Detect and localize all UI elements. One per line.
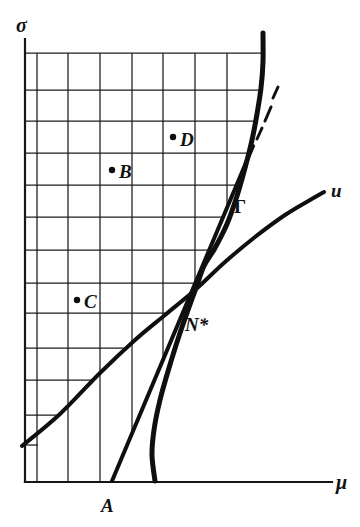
u-curve-label: u — [331, 180, 342, 201]
point-c-dot — [74, 297, 80, 303]
grid-layer — [25, 53, 262, 482]
gamma-curve-label: Γ — [234, 196, 246, 217]
point-b-dot — [109, 167, 115, 173]
point-a-label: A — [100, 495, 114, 516]
point-d-label: D — [179, 129, 194, 150]
mu-axis-label: μ — [335, 471, 347, 494]
figure-canvas: σ μ A B C D Γ N* u — [0, 0, 360, 527]
curves-layer — [22, 33, 324, 481]
labels-layer: σ μ A B C D Γ N* u — [16, 14, 347, 516]
tangent-line-dash-extension — [273, 87, 278, 98]
points-layer — [74, 134, 176, 303]
point-b-label: B — [118, 161, 132, 182]
tangent-line-dash-extension — [257, 128, 262, 139]
point-c-label: C — [84, 291, 97, 312]
n-star-point-label: N* — [184, 314, 209, 335]
u-indifference-curve — [22, 192, 324, 446]
point-d-dot — [170, 134, 176, 140]
axes-layer — [25, 39, 332, 482]
tangent-line-dash-extension — [265, 107, 271, 121]
figure-page: σ μ A B C D Γ N* u — [0, 0, 360, 527]
sigma-axis-label: σ — [16, 14, 28, 36]
